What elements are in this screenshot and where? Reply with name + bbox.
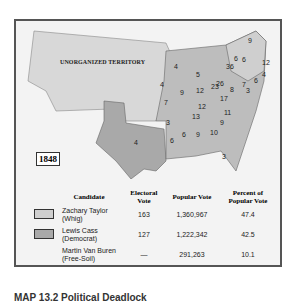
candidate-name: Lewis Cass — [62, 227, 98, 234]
state-ev-tn: 13 — [192, 113, 200, 120]
election-map-frame: UNORGANIZED TERRITORY 1848 9 6 6 12 36 4… — [14, 19, 282, 267]
electoral-vote: — — [120, 245, 168, 265]
candidate-party: (Democrat) — [62, 235, 97, 242]
state-ev-il: 9 — [180, 89, 184, 96]
results-table: Candidate Electoral Vote Popular Vote Pe… — [30, 189, 280, 265]
figure-caption: MAP 13.2 Political Deadlock — [14, 292, 147, 303]
candidate-name: Zachary Taylor — [62, 207, 108, 214]
state-ev-in: 12 — [196, 87, 204, 94]
state-ev-al: 9 — [196, 131, 200, 138]
state-ev-vt: 6 — [234, 55, 238, 62]
state-ev-nc: 11 — [224, 109, 231, 116]
whig-swatch — [34, 209, 54, 219]
table-row: Lewis Cass(Democrat) 127 1,222,342 42.5 — [30, 225, 280, 245]
state-ev-ri: 4 — [262, 71, 266, 78]
state-ev-ar: 3 — [166, 119, 170, 126]
state-ev-nh: 6 — [242, 56, 246, 63]
popular-percent: 42.5 — [216, 225, 280, 245]
popular-vote: 1,222,342 — [168, 225, 216, 245]
state-ev-sc: 9 — [220, 119, 224, 126]
candidate-party: (Free-Soil) — [62, 255, 95, 262]
table-row: Martin Van Buren(Free-Soil) — 291,263 10… — [30, 245, 280, 265]
header-popular: Popular Vote — [168, 189, 216, 205]
year-label: 1848 — [36, 152, 60, 166]
state-ev-mi: 5 — [196, 71, 200, 78]
state-ev-wi: 4 — [174, 63, 178, 70]
state-ev-ms: 6 — [182, 131, 186, 138]
header-percent: Percent of Popular Vote — [216, 189, 280, 205]
popular-percent: 10.1 — [216, 245, 280, 265]
state-ev-ia: 4 — [160, 81, 164, 88]
electoral-vote: 163 — [120, 205, 168, 225]
state-ev-va: 17 — [220, 95, 228, 102]
candidate-party: (Whig) — [62, 215, 83, 222]
header-candidate: Candidate — [58, 189, 120, 205]
state-ev-ky: 12 — [198, 103, 206, 110]
state-ev-ny: 36 — [226, 63, 234, 70]
state-ev-oh: 23 — [211, 83, 219, 90]
state-ev-la: 6 — [170, 137, 174, 144]
state-ev-mo: 7 — [164, 99, 168, 106]
state-ev-md: 8 — [230, 86, 234, 93]
state-ev-de: 3 — [246, 87, 250, 94]
popular-vote: 1,360,967 — [168, 205, 216, 225]
state-ev-ga: 10 — [210, 129, 218, 136]
territory-label: UNORGANIZED TERRITORY — [60, 59, 145, 65]
candidate-name: Martin Van Buren — [62, 247, 116, 254]
state-ev-maine: 9 — [248, 37, 252, 44]
header-electoral: Electoral Vote — [120, 189, 168, 205]
electoral-vote: 127 — [120, 225, 168, 245]
state-ev-fl: 3 — [222, 153, 226, 160]
table-row: Zachary Taylor(Whig) 163 1,360,967 47.4 — [30, 205, 280, 225]
popular-percent: 47.4 — [216, 205, 280, 225]
state-ev-ma: 12 — [262, 59, 270, 66]
democrat-swatch — [34, 229, 54, 239]
popular-vote: 291,263 — [168, 245, 216, 265]
state-ev-tx: 4 — [134, 139, 138, 146]
state-ev-ct: 6 — [254, 77, 258, 84]
